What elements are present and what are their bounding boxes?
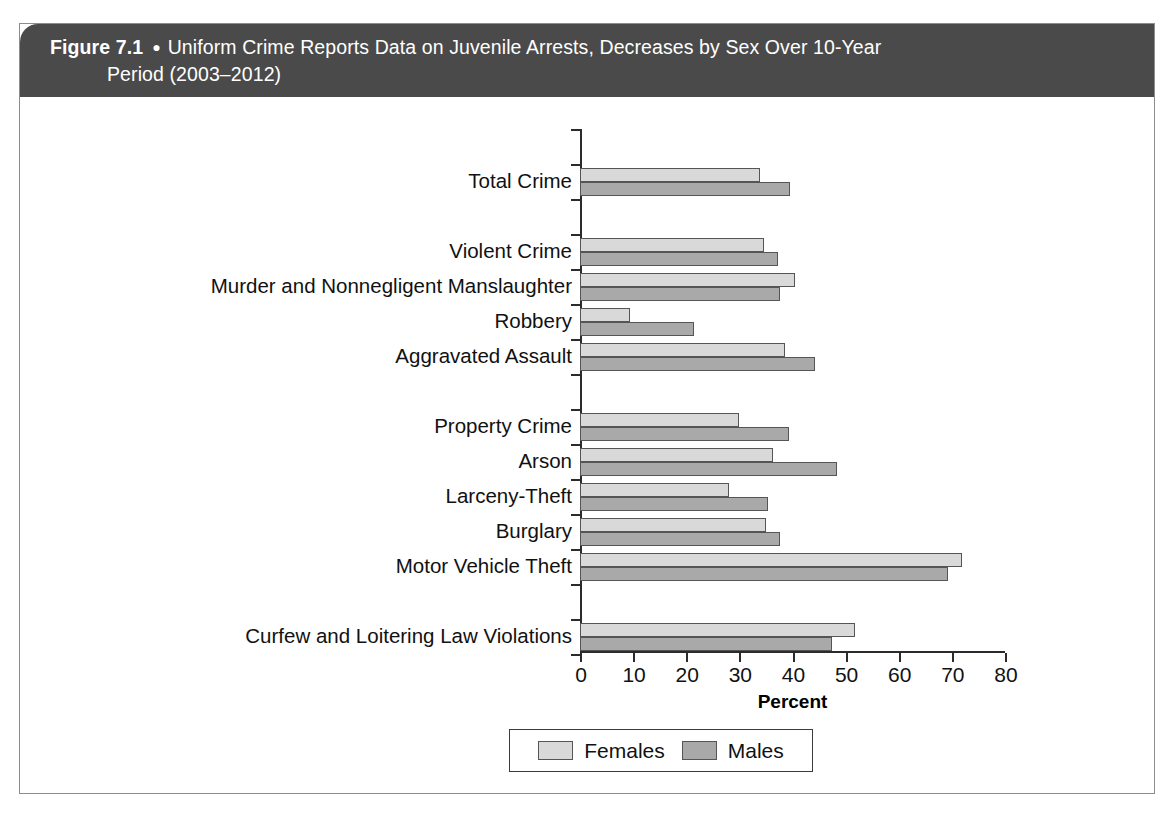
legend-item-females: Females xyxy=(538,739,665,763)
bar-males-violent-crime xyxy=(580,252,778,266)
category-label: Larceny-Theft xyxy=(20,484,572,508)
bar-females-curfew-and-loitering-law-violations xyxy=(580,623,855,637)
category-label: Property Crime xyxy=(20,414,572,438)
legend-swatch-males xyxy=(682,741,717,760)
legend-item-males: Males xyxy=(682,739,784,763)
bar-females-arson xyxy=(580,448,773,462)
bar-males-motor-vehicle-theft xyxy=(580,567,948,581)
y-axis-tick xyxy=(571,199,582,201)
legend-swatch-females xyxy=(538,741,573,760)
bar-females-violent-crime xyxy=(580,238,764,252)
y-axis-tick xyxy=(571,549,582,551)
x-axis-tick xyxy=(793,653,795,662)
y-axis-tick xyxy=(571,234,582,236)
figure-card: Figure 7.1●Uniform Crime Reports Data on… xyxy=(19,23,1155,794)
figure-title-line-2: Period (2003–2012) xyxy=(50,61,1128,88)
bar-males-total-crime xyxy=(580,182,790,196)
bar-females-robbery xyxy=(580,308,630,322)
x-axis-tick-label: 20 xyxy=(667,663,707,687)
y-axis-tick xyxy=(571,269,582,271)
y-axis-tick xyxy=(571,619,582,621)
bar-males-aggravated-assault xyxy=(580,357,815,371)
y-axis-tick xyxy=(571,444,582,446)
y-axis-tick xyxy=(571,584,582,586)
bar-males-arson xyxy=(580,462,837,476)
x-axis-tick xyxy=(1005,653,1007,662)
x-axis-tick-label: 60 xyxy=(880,663,920,687)
bar-males-murder-and-nonnegligent-manslaughter xyxy=(580,287,780,301)
x-axis-tick-label: 10 xyxy=(614,663,654,687)
bar-males-larceny-theft xyxy=(580,497,768,511)
category-label: Curfew and Loitering Law Violations xyxy=(20,624,572,648)
figure-header-line-1: Figure 7.1●Uniform Crime Reports Data on… xyxy=(50,34,1128,61)
bar-males-robbery xyxy=(580,322,694,336)
x-axis-tick-label: 80 xyxy=(986,663,1026,687)
y-axis-tick xyxy=(571,479,582,481)
x-axis-tick xyxy=(846,653,848,662)
bar-males-property-crime xyxy=(580,427,789,441)
x-axis-tick-label: 50 xyxy=(827,663,867,687)
category-label: Murder and Nonnegligent Manslaughter xyxy=(20,274,572,298)
bar-males-burglary xyxy=(580,532,780,546)
legend-label-females: Females xyxy=(584,739,665,763)
x-axis-tick xyxy=(580,653,582,662)
y-axis-tick xyxy=(571,164,582,166)
x-axis-tick xyxy=(739,653,741,662)
bar-females-murder-and-nonnegligent-manslaughter xyxy=(580,273,795,287)
category-label: Motor Vehicle Theft xyxy=(20,554,572,578)
category-label: Aggravated Assault xyxy=(20,344,572,368)
chart-legend: Females Males xyxy=(509,729,813,772)
category-label: Total Crime xyxy=(20,169,572,193)
bar-females-larceny-theft xyxy=(580,483,729,497)
figure-label: Figure 7.1 xyxy=(50,36,143,58)
bar-females-aggravated-assault xyxy=(580,343,785,357)
x-axis-tick-label: 30 xyxy=(720,663,760,687)
y-axis-tick xyxy=(571,129,582,131)
x-axis-tick xyxy=(952,653,954,662)
bar-females-total-crime xyxy=(580,168,760,182)
x-axis-title: Percent xyxy=(580,691,1005,713)
x-axis-tick xyxy=(899,653,901,662)
y-axis-tick xyxy=(571,374,582,376)
y-axis-tick xyxy=(571,409,582,411)
x-axis-tick-label: 0 xyxy=(561,663,601,687)
x-axis-tick xyxy=(633,653,635,662)
bullet-icon: ● xyxy=(152,34,161,61)
category-label: Arson xyxy=(20,449,572,473)
x-axis-tick xyxy=(686,653,688,662)
category-label: Burglary xyxy=(20,519,572,543)
bar-females-property-crime xyxy=(580,413,739,427)
x-axis-tick-label: 40 xyxy=(774,663,814,687)
figure-title-line-1: Uniform Crime Reports Data on Juvenile A… xyxy=(168,36,882,58)
plot-area: Percent Total CrimeViolent CrimeMurder a… xyxy=(20,97,1154,794)
category-label: Violent Crime xyxy=(20,239,572,263)
category-label: Robbery xyxy=(20,309,572,333)
y-axis-tick xyxy=(571,514,582,516)
bar-males-curfew-and-loitering-law-violations xyxy=(580,637,832,651)
y-axis-tick xyxy=(571,304,582,306)
y-axis-tick xyxy=(571,339,582,341)
bar-chart: Percent Total CrimeViolent CrimeMurder a… xyxy=(20,97,1156,794)
legend-label-males: Males xyxy=(728,739,784,763)
figure-header-line-2: Period (2003–2012) xyxy=(50,61,1128,88)
figure-header: Figure 7.1●Uniform Crime Reports Data on… xyxy=(20,24,1154,97)
bar-females-burglary xyxy=(580,518,766,532)
x-axis-tick-label: 70 xyxy=(933,663,973,687)
bar-females-motor-vehicle-theft xyxy=(580,553,962,567)
